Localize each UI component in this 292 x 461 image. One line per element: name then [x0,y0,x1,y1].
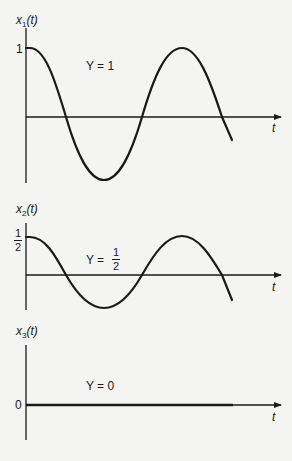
ytick-0: 0 [15,399,22,411]
ytick-half: 1 2 [14,228,22,253]
annotation-den: 2 [113,261,119,272]
ylabel-sub: 2 [22,209,26,218]
ylabel-sub: 1 [22,20,26,29]
annotation-num: 1 [113,247,119,258]
ytick-1: 1 [16,43,23,55]
ylabel-x2: x2(t) [16,203,38,215]
ylabel-sub: 3 [22,331,26,340]
ylabel-x1: x1(t) [16,14,38,26]
ytick-num: 1 [15,228,21,239]
ylabel-arg: (t) [26,202,37,216]
xlabel-t: t [272,411,275,423]
ylabel-arg: (t) [26,13,37,27]
annotation-y-half-frac: 1 2 [112,247,120,272]
annotation-y1: Y = 1 [86,60,114,72]
ylabel-x3: x3(t) [16,325,38,337]
signal-curve [26,48,232,180]
annotation-y-half-prefix: Y = [86,254,104,266]
xlabel-t: t [272,281,275,293]
signal-curve [26,236,232,308]
plot-x2 [26,223,281,310]
xlabel-t: t [272,122,275,134]
ytick-den: 2 [15,242,21,253]
ylabel-arg: (t) [26,324,37,338]
annotation-y0: Y = 0 [86,380,114,392]
plot-x1 [26,28,281,183]
plot-x3 [26,345,281,440]
signal-plots [0,0,292,461]
